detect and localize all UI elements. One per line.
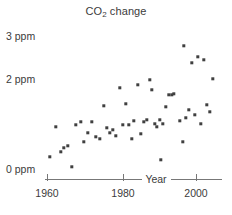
scatter-point [187,108,190,111]
scatter-point [82,140,85,143]
scatter-point [145,118,148,121]
scatter-point [114,134,117,137]
scatter-point [111,128,114,131]
scatter-point [158,118,161,121]
scatter-point [202,58,205,61]
scatter-point [161,122,164,125]
scatter-point [102,104,105,107]
scatter-point [132,119,135,122]
scatter-point [208,110,211,113]
scatter-point [70,165,73,168]
scatter-point [86,131,89,134]
scatter-point [59,150,62,153]
scatter-point [136,83,139,86]
scatter-point [182,44,185,47]
scatter-point [164,105,167,108]
x-axis-tick-mark-1980 [123,174,124,181]
scatter-point [181,140,184,143]
scatter-point [199,122,202,125]
scatter-point [108,131,111,134]
x-axis-tick-label-1980: 1980 [111,187,134,199]
scatter-point [196,55,199,58]
x-axis-tick-label-2000: 2000 [184,187,207,199]
x-axis-tick-mark-2000 [196,174,197,181]
scatter-point [74,123,77,126]
x-axis-tick-mark-1960 [47,174,48,181]
scatter-point [79,120,82,123]
scatter-point [148,78,151,81]
scatter-point [48,155,51,158]
scatter-point [62,146,65,149]
x-axis-line-left-segment [45,179,142,180]
x-axis-title: Year [145,173,166,185]
scatter-point [90,120,93,123]
scatter-point [190,61,193,64]
scatter-point [130,137,133,140]
scatter-point [118,86,121,89]
scatter-point [121,123,124,126]
scatter-point [178,119,181,122]
scatter-point [211,77,214,80]
x-axis-tick-label-1960: 1960 [35,187,58,199]
scatter-point [98,137,101,140]
scatter-point [94,135,97,138]
scatter-points-layer [0,0,232,215]
scatter-point [54,125,57,128]
scatter-point [105,126,108,129]
scatter-point [150,88,153,91]
scatter-point [155,125,158,128]
scatter-point [127,123,130,126]
scatter-point [159,158,162,161]
scatter-point [193,113,196,116]
scatter-point [184,116,187,119]
scatter-point [205,103,208,106]
scatter-point [124,102,127,105]
co2-change-scatter-chart: CO2 change 3 ppm 2 ppm 0 ppm Year 1960 1… [0,0,232,215]
scatter-point [139,132,142,135]
scatter-point [66,144,69,147]
scatter-point [172,92,175,95]
